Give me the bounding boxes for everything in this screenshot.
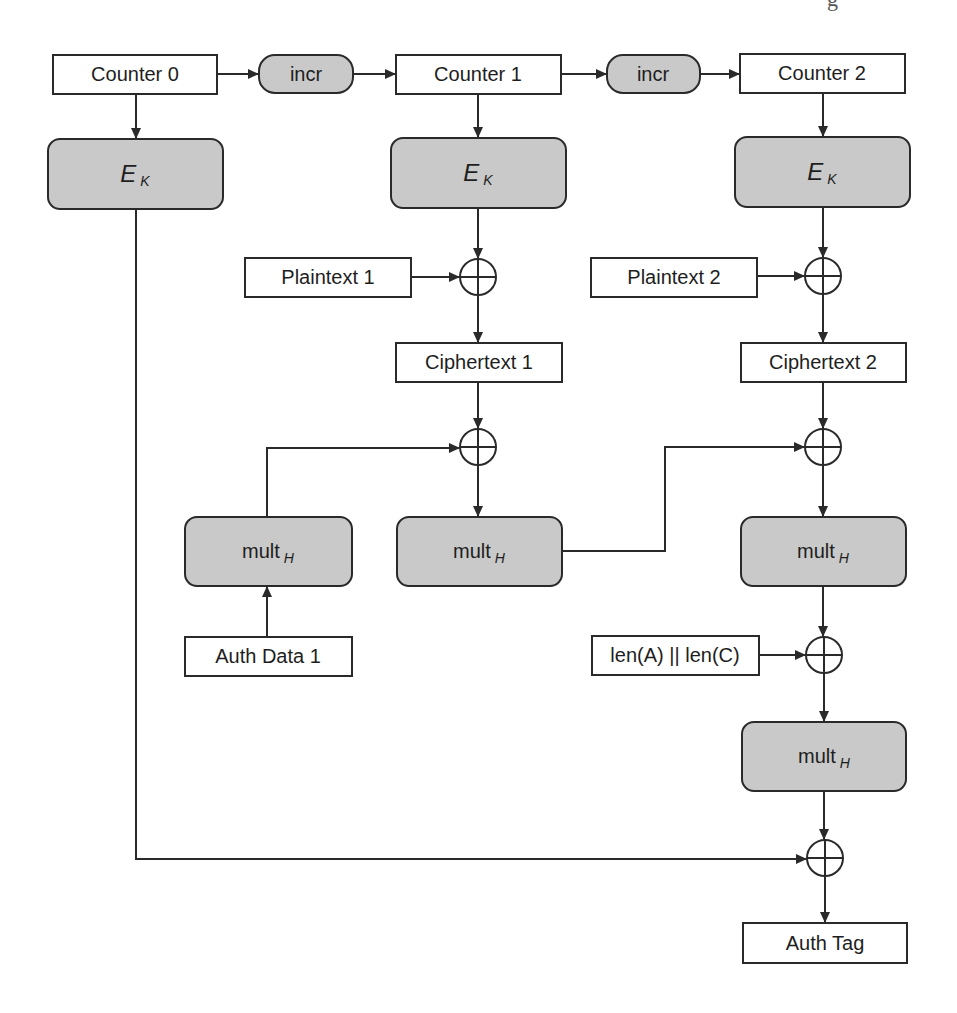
mult-h-1-block: multH: [397, 517, 562, 586]
counter-2-label: Counter 2: [778, 62, 866, 84]
mult-h-3-label: mult: [798, 745, 836, 767]
ciphertext-1-label: Ciphertext 1: [425, 351, 533, 373]
ek-0-subscript: K: [140, 173, 150, 189]
mult-h-auth-label: mult: [242, 540, 280, 562]
counter-2-block: Counter 2: [740, 54, 905, 93]
xor-icon: [805, 258, 841, 294]
counter-1-block: Counter 1: [396, 55, 561, 94]
ek-0-block: EK: [48, 139, 223, 209]
auth-tag-label: Auth Tag: [786, 932, 865, 954]
gcm-diagram: Counter 0 Counter 1 Counter 2 incr incr …: [0, 0, 957, 1013]
mult-h-3-subscript: H: [840, 755, 851, 771]
incr-2-label: incr: [637, 63, 670, 85]
counter-0-label: Counter 0: [91, 63, 179, 85]
ciphertext-1-block: Ciphertext 1: [396, 343, 562, 382]
ek-2-subscript: K: [827, 171, 837, 187]
arrow-multA-xor2: [267, 448, 459, 517]
plaintext-1-block: Plaintext 1: [245, 258, 411, 297]
mult-h-1-label: mult: [453, 540, 491, 562]
mult-h-auth-subscript: H: [284, 550, 295, 566]
mult-h-auth-block: multH: [185, 517, 352, 586]
xor-icon: [806, 637, 842, 673]
plaintext-2-block: Plaintext 2: [591, 258, 757, 297]
incr-2-block: incr: [607, 55, 700, 93]
ek-2-block: EK: [735, 137, 910, 207]
mult-h-2-subscript: H: [839, 550, 850, 566]
lengths-block: len(A) || len(C): [592, 636, 759, 675]
mult-h-1-subscript: H: [495, 550, 506, 566]
mult-h-2-block: multH: [741, 517, 906, 586]
incr-1-label: incr: [290, 63, 323, 85]
counter-0-block: Counter 0: [53, 55, 217, 94]
ek-1-label: E: [463, 159, 480, 186]
plaintext-1-label: Plaintext 1: [281, 266, 374, 288]
ciphertext-2-label: Ciphertext 2: [769, 351, 877, 373]
ek-2-label: E: [807, 158, 824, 185]
auth-data-1-block: Auth Data 1: [185, 637, 352, 676]
counter-1-label: Counter 1: [434, 63, 522, 85]
xor-icon: [807, 840, 843, 876]
ciphertext-2-block: Ciphertext 2: [741, 343, 906, 382]
ek-1-subscript: K: [483, 172, 493, 188]
mult-h-2-label: mult: [797, 540, 835, 562]
plaintext-2-label: Plaintext 2: [627, 266, 720, 288]
mult-h-3-block: multH: [742, 722, 906, 791]
ek-0-label: E: [120, 160, 137, 187]
auth-data-1-label: Auth Data 1: [215, 645, 321, 667]
lengths-label: len(A) || len(C): [610, 644, 739, 666]
xor-icon: [805, 429, 841, 465]
xor-icon: [460, 259, 496, 295]
auth-tag-block: Auth Tag: [743, 923, 907, 963]
incr-1-block: incr: [259, 55, 353, 93]
ek-1-block: EK: [391, 138, 566, 208]
xor-icon: [460, 429, 496, 465]
